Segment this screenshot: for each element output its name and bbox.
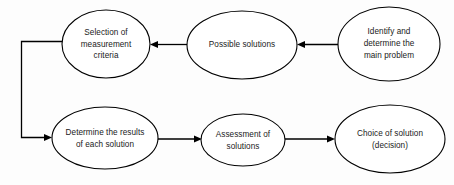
node-ellipse[interactable] <box>335 105 445 173</box>
arrowhead-icon <box>297 41 305 48</box>
arrowhead-icon <box>44 134 52 141</box>
node-label-line-3: main problem <box>364 51 414 60</box>
edge-identify-to-possible-solutions <box>297 41 338 48</box>
node-label-line-2: (decision) <box>372 141 408 150</box>
node-label-line-2: solutions <box>227 142 260 151</box>
node-label-line-3: criteria <box>94 51 119 60</box>
flowchart-diagram: Selection of measurement criteria Possib… <box>0 0 454 185</box>
node-ellipse[interactable] <box>201 114 285 166</box>
node-identify-and-determine-the-main-problem[interactable]: Identify and determine the main problem <box>338 7 440 81</box>
node-label-line-1: Assessment of <box>216 130 271 139</box>
edge-assessment-to-choice <box>285 136 335 143</box>
node-assessment-of-solutions[interactable]: Assessment of solutions <box>201 114 285 166</box>
flowchart-canvas: Selection of measurement criteria Possib… <box>0 0 454 185</box>
node-label-line-1: Possible solutions <box>209 40 275 49</box>
node-possible-solutions[interactable]: Possible solutions <box>187 11 297 79</box>
edge-determine-results-to-assessment <box>158 136 202 143</box>
arrowhead-icon <box>150 41 158 48</box>
node-label-line-1: Determine the results <box>66 128 145 137</box>
node-choice-of-solution-decision[interactable]: Choice of solution (decision) <box>335 105 445 173</box>
edge-path <box>22 42 63 138</box>
edge-possible-solutions-to-selection <box>150 41 187 48</box>
node-ellipse[interactable] <box>52 107 158 169</box>
node-determine-the-results-of-each-solution[interactable]: Determine the results of each solution <box>52 107 158 169</box>
node-label-line-1: Identify and <box>368 27 411 36</box>
node-label-line-2: determine the <box>364 39 415 48</box>
node-selection-of-measurement-criteria[interactable]: Selection of measurement criteria <box>62 10 150 78</box>
node-label-line-2: measurement <box>81 40 132 49</box>
arrowhead-icon <box>327 136 335 143</box>
node-label-line-2: of each solution <box>76 140 135 149</box>
node-label-line-1: Selection of <box>84 28 128 37</box>
node-label-line-1: Choice of solution <box>357 129 423 138</box>
